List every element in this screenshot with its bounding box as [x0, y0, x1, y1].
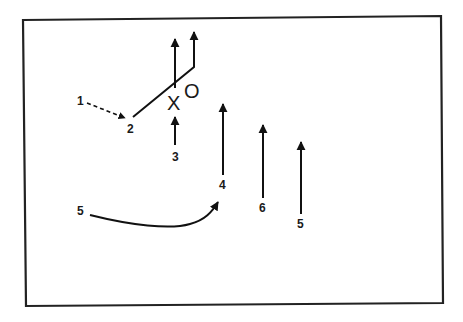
diagram-frame — [23, 16, 443, 306]
x-marker: X — [167, 92, 180, 114]
label-player-1: 1 — [77, 94, 84, 108]
label-player-5-left: 5 — [77, 204, 84, 218]
label-player-6: 6 — [259, 201, 266, 215]
label-player-2: 2 — [127, 122, 134, 136]
label-player-4: 4 — [219, 178, 226, 192]
o-marker: O — [184, 80, 200, 102]
play-diagram: 1 2 X O 3 4 5 6 5 — [0, 0, 463, 322]
label-player-5-right: 5 — [297, 217, 304, 231]
label-player-3: 3 — [172, 150, 179, 164]
